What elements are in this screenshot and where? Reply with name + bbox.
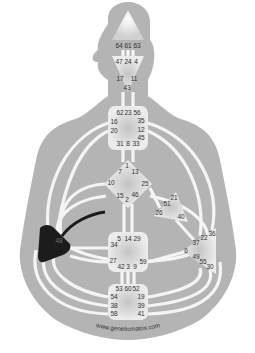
gate-5-label: 5 <box>117 236 121 243</box>
gate-58-label: 58 <box>110 311 117 318</box>
gate-35-label: 35 <box>137 118 144 125</box>
gate-46-label: 46 <box>131 192 138 199</box>
gate-38-label: 38 <box>110 303 117 310</box>
gate-59-label: 59 <box>139 259 146 266</box>
gate-36-label: 36 <box>208 231 215 238</box>
gate-60-label: 60 <box>124 286 131 293</box>
gate-29-label: 29 <box>133 236 140 243</box>
gate-64-label: 64 <box>115 43 122 50</box>
gate-12-label: 12 <box>137 127 144 134</box>
gate-8-label: 8 <box>126 141 130 148</box>
gate-47-label: 47 <box>115 59 122 66</box>
gate-63-label: 63 <box>133 43 140 50</box>
gate-39-label: 39 <box>137 303 144 310</box>
gate-56-label: 56 <box>133 110 140 117</box>
bodygraph-chart: www.geneticmatrix.com 646163472441711436… <box>0 0 255 353</box>
bodygraph-svg: www.geneticmatrix.com <box>0 0 255 353</box>
gate-54-label: 54 <box>110 294 117 301</box>
gate-2-label: 2 <box>125 197 129 204</box>
gate-27-label: 27 <box>109 258 116 265</box>
gate-25-label: 25 <box>141 181 148 188</box>
gate-43-label: 43 <box>123 85 130 92</box>
gate-34-label: 34 <box>110 242 117 249</box>
gate-21-label: 21 <box>170 195 177 202</box>
gate-15-label: 15 <box>116 193 123 200</box>
gate-51-label: 51 <box>163 201 170 208</box>
gate-24-label: 24 <box>124 59 131 66</box>
gate-11-label: 11 <box>131 76 138 83</box>
gate-4-label: 4 <box>134 59 138 66</box>
gate-33-label: 33 <box>132 141 139 148</box>
gate-20-label: 20 <box>110 128 117 135</box>
gate-19-label: 19 <box>137 294 144 301</box>
gate-23-label: 23 <box>124 110 131 117</box>
gate-9-label: 9 <box>133 264 137 271</box>
gate-42-label: 42 <box>117 264 124 271</box>
gate-41-label: 41 <box>137 311 144 318</box>
gate-10-label: 10 <box>107 180 114 187</box>
gate-26-label: 26 <box>155 210 162 217</box>
gate-7-label: 7 <box>118 169 122 176</box>
gate-62-label: 62 <box>116 110 123 117</box>
gate-1-label: 1 <box>125 163 129 170</box>
gate-17-label: 17 <box>116 76 123 83</box>
gate-53-label: 53 <box>115 286 122 293</box>
gate-30-label: 30 <box>206 264 213 271</box>
gate-31-label: 31 <box>116 141 123 148</box>
gate-22-label: 22 <box>200 235 207 242</box>
gate-6-label: 6 <box>184 248 188 255</box>
gate-40-label: 40 <box>177 214 184 221</box>
gate-37-label: 37 <box>192 240 199 247</box>
gate-3-label: 3 <box>126 264 130 271</box>
gate-52-label: 52 <box>132 286 139 293</box>
gate-61-label: 61 <box>124 43 131 50</box>
gate-14-label: 14 <box>124 236 131 243</box>
gate-48-label: 48 <box>55 238 62 245</box>
gate-16-label: 16 <box>110 119 117 126</box>
gate-13-label: 13 <box>131 169 138 176</box>
